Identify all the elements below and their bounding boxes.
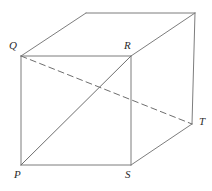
vertex-label-S: S xyxy=(125,169,131,180)
vertex-label-T: T xyxy=(199,116,205,127)
edge-bottom-right-ST xyxy=(131,124,192,165)
edge-top-right-RB xyxy=(131,13,195,56)
edge-face-diagonal-PR xyxy=(21,56,131,165)
vertex-label-P: P xyxy=(14,169,21,180)
vertex-label-R: R xyxy=(124,40,131,51)
geometry-figure: Q R P S T xyxy=(0,0,212,191)
edge-group xyxy=(21,13,195,165)
edge-right-vertical-BT xyxy=(192,13,195,124)
edge-top-left-QA xyxy=(21,13,86,56)
vertex-label-Q: Q xyxy=(9,40,17,51)
edge-hidden-diagonal-QT xyxy=(21,56,192,124)
cube-drawing xyxy=(0,0,212,191)
